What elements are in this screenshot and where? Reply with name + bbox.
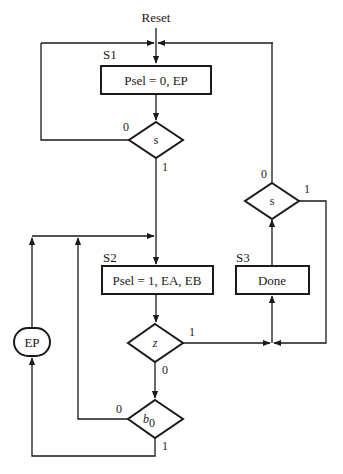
decision-z-condition: z (152, 336, 158, 350)
conditional-output-ep-label: EP (24, 335, 39, 350)
state-s1-label: S1 (103, 47, 117, 62)
state-s2-action: Psel = 1, EA, EB (113, 273, 202, 288)
asm-chart: Reset S1 Psel = 0, EP s 0 1 S2 Psel = 1,… (0, 0, 343, 474)
decision-b0-branch-1: 1 (162, 439, 168, 453)
state-s3-label: S3 (236, 250, 250, 265)
decision-s1-s-condition: s (154, 133, 159, 147)
decision-s3-s-condition: s (270, 194, 275, 208)
state-s3-action: Done (258, 273, 286, 288)
b0-1-to-ep-line (32, 358, 155, 456)
state-s2-label: S2 (103, 250, 117, 265)
decision-s1-s-branch-0: 0 (123, 120, 129, 134)
decision-s1-s-branch-1: 1 (162, 160, 168, 174)
decision-z-branch-1: 1 (189, 325, 195, 339)
decision-s3-s-branch-0: 0 (261, 167, 267, 181)
reset-label: Reset (142, 10, 171, 25)
decision-z-branch-0: 0 (162, 363, 168, 377)
decision-b0 (128, 400, 183, 438)
decision-s3-s-branch-1: 1 (304, 182, 310, 196)
decision-b0-branch-0: 0 (116, 402, 122, 416)
state-s1-action: Psel = 0, EP (124, 73, 188, 88)
